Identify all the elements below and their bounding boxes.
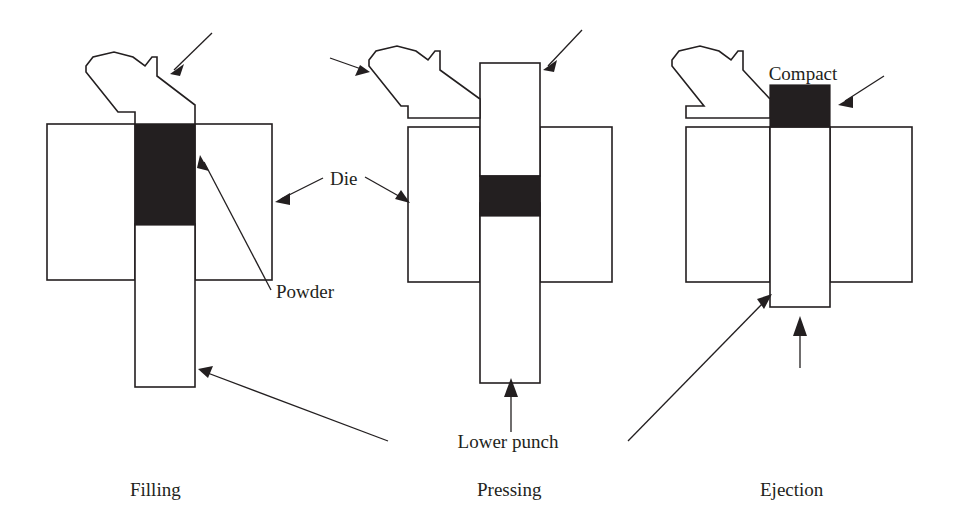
die-right-block-filling [195,124,272,280]
die-label: Die [330,168,357,189]
lower-punch-ejection [770,127,830,307]
upper-punch-filling [86,52,195,124]
compact-arrow [838,76,884,108]
stage-filling-group [47,33,388,441]
caption-pressing: Pressing [477,479,542,500]
compact-label: Compact [769,63,838,84]
die-arrow-right [275,178,323,205]
die-right-block-pressing [540,127,612,282]
upper-punch-frame-pressing [369,46,480,118]
caption-filling: Filling [130,479,181,500]
figure-canvas: Die Powder Compact Lower punch Filling P… [0,0,954,523]
upper-punch-arrow-3 [543,30,582,72]
die-arrow-left [365,177,410,203]
powder-label: Powder [276,281,335,302]
press-force-arrow-right [793,316,807,368]
lower-punch-filling [135,224,195,387]
die-left-block-ejection [686,127,770,282]
powder-compaction-diagram: Die Powder Compact Lower punch Filling P… [0,0,954,523]
compact-ejection [770,85,830,127]
upper-punch-ejection [672,46,770,118]
lower-punch-arrow-right [628,294,772,441]
stage-ejection-group [628,46,912,441]
die-left-block-pressing [408,127,480,282]
powder-fill-filling [135,124,195,225]
upper-punch-arrow-2 [330,58,370,76]
lower-punch-arrow-left [198,366,388,441]
stage-pressing-group [330,30,612,432]
caption-ejection: Ejection [760,479,824,500]
die-left-block-filling [47,124,135,280]
lower-punch-pressing [480,203,540,383]
die-right-block-ejection [830,127,912,282]
lower-punch-label: Lower punch [458,431,559,452]
compact-pressing [480,176,540,216]
upper-punch-ram-pressing [480,63,540,176]
upper-punch-arrow-1 [170,33,212,76]
